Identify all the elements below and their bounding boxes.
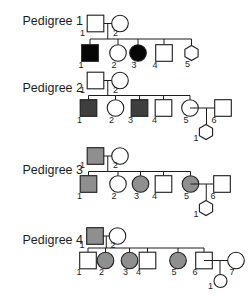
pedigree-2-father-label: 1	[80, 85, 85, 95]
pedigree-1-mother-label: 2	[113, 28, 118, 38]
pedigree-1-child-5-label: 5	[185, 59, 190, 69]
pedigree-4-child-6-label: 6	[193, 267, 198, 277]
pedigree-1-child-2-circle	[110, 45, 127, 62]
pedigree-1-child-1-square	[82, 45, 99, 62]
pedigree-3-title: Pedigree 3	[23, 163, 84, 177]
pedigree-1-child-4-square	[156, 45, 173, 62]
pedigree-2-couple-child-label: 1	[194, 133, 199, 143]
pedigree-3-mother-label: 2	[113, 160, 118, 170]
pedigree-4-child-5-circle	[170, 252, 187, 269]
pedigree-chart-svg: Pedigree 11234512Pedigree 2123451261Pedi…	[0, 0, 252, 300]
pedigree-4-child-4-label: 4	[136, 267, 141, 277]
pedigree-1-child-3-label: 3	[132, 60, 137, 70]
pedigree-4-father-label: 1	[80, 240, 85, 250]
pedigree-2-father-square	[87, 72, 104, 89]
pedigree-3-child-1-label: 1	[77, 191, 82, 201]
pedigree-4-spouse-7-circle	[228, 252, 245, 269]
pedigree-3-father-square	[87, 148, 104, 165]
pedigree-4-child-3-label: 3	[123, 267, 128, 277]
pedigree-4-child-4-square	[139, 252, 156, 269]
pedigree-3-couple-child-hexagon	[199, 200, 212, 215]
pedigree-3-child-4-square	[155, 176, 172, 193]
pedigree-4-child-1-label: 1	[77, 267, 82, 277]
pedigree-2-child-4-label: 4	[152, 115, 157, 125]
pedigree-3-child-5-label: 5	[184, 191, 189, 201]
pedigree-3-child-4-label: 4	[152, 191, 157, 201]
pedigree-1-child-1-label: 1	[79, 60, 84, 70]
pedigree-2-title: Pedigree 2	[23, 81, 84, 95]
pedigree-4-child-3-circle	[121, 252, 138, 269]
pedigree-2-child-3-square	[131, 100, 148, 117]
pedigree-4-mother-label: 2	[111, 240, 116, 250]
pedigree-1-child-2-label: 2	[112, 60, 117, 70]
pedigree-2-child-4-square	[155, 100, 172, 117]
pedigree-2-spouse-6-square	[215, 100, 232, 117]
pedigree-3-child-2-circle	[110, 176, 127, 193]
pedigree-2-spouse-6-label: 6	[212, 115, 217, 125]
pedigree-2-child-1-square	[80, 100, 97, 117]
pedigree-3-couple-child-label: 1	[194, 209, 199, 219]
pedigree-4-spouse-7-label: 7	[230, 267, 235, 277]
pedigree-1-father-square	[87, 15, 104, 32]
pedigree-2-child-2-label: 2	[109, 115, 114, 125]
pedigree-4-title: Pedigree 4	[23, 233, 84, 247]
pedigree-2-child-5-label: 5	[184, 115, 189, 125]
pedigree-3-child-2-label: 2	[112, 191, 117, 201]
pedigree-3-spouse-6-square	[214, 176, 231, 193]
pedigree-4-child-2-circle	[97, 252, 114, 269]
pedigree-1-child-4-label: 4	[153, 60, 158, 70]
pedigree-2-child-2-circle	[107, 100, 124, 117]
pedigree-4-couple-child-circle	[214, 275, 227, 288]
pedigree-3-child-3-circle	[132, 176, 149, 193]
pedigree-3-spouse-6-label: 6	[211, 191, 216, 201]
pedigree-2-child-3-label: 3	[128, 115, 133, 125]
pedigree-3-father-label: 1	[80, 160, 85, 170]
pedigree-4-child-2-label: 2	[99, 267, 104, 277]
pedigree-1-father-label: 1	[80, 28, 85, 38]
pedigree-2-child-1-label: 1	[77, 115, 82, 125]
pedigree-figure: Pedigree 11234512Pedigree 2123451261Pedi…	[0, 0, 252, 300]
pedigree-4-couple-child-label: 1	[208, 281, 213, 291]
pedigree-4-child-5-label: 5	[172, 267, 177, 277]
pedigree-2-couple-child-hexagon	[199, 124, 212, 139]
pedigree-2-mother-label: 2	[113, 85, 118, 95]
pedigree-4-father-square	[87, 228, 104, 245]
pedigree-1-child-3-circle	[130, 45, 147, 62]
pedigree-1-title: Pedigree 1	[23, 14, 84, 28]
pedigree-3-child-1-square	[80, 176, 97, 193]
pedigree-3-child-3-label: 3	[134, 191, 139, 201]
pedigree-4-child-1-square	[80, 252, 97, 269]
